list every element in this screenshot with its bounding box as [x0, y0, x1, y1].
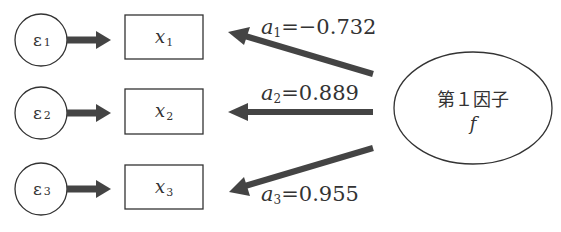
factor-diagram: ε1 ε2 ε3 x1 x2 x3: [0, 0, 561, 232]
svg-text:x3: x3: [155, 176, 173, 199]
loading-label-1: a1=−0.732: [261, 15, 376, 40]
variable-box-2: x2: [125, 89, 203, 134]
factor-symbol: f: [468, 113, 480, 134]
loading-label-3: a3=0.955: [261, 182, 359, 207]
svg-text:ε3: ε3: [33, 179, 51, 199]
loading-arrow-2: [228, 103, 373, 121]
variable-box-1: x1: [125, 15, 203, 59]
svg-text:ε2: ε2: [33, 103, 51, 123]
factor-label: 第１因子: [437, 89, 509, 110]
error-node-2: ε2: [15, 87, 67, 139]
error-arrow-2: [67, 104, 111, 122]
error-arrow-3: [67, 180, 111, 198]
error-node-1: ε1: [15, 14, 67, 66]
svg-text:x1: x1: [155, 26, 173, 49]
loading-label-2: a2=0.889: [261, 81, 359, 106]
error-arrow-1: [67, 31, 111, 49]
factor-node: 第１因子 f: [394, 52, 552, 164]
variable-box-3: x3: [125, 165, 203, 209]
svg-text:ε1: ε1: [33, 30, 51, 50]
svg-text:x2: x2: [155, 100, 173, 123]
error-node-3: ε3: [15, 163, 67, 215]
